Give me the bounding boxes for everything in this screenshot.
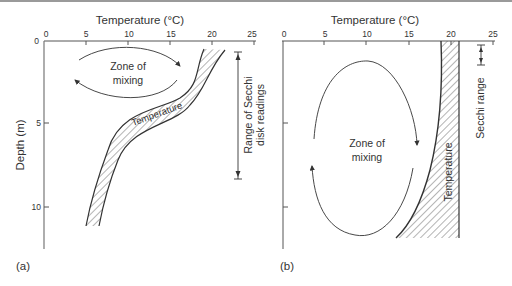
svg-text:20: 20 <box>207 29 217 39</box>
svg-text:10: 10 <box>32 202 42 212</box>
svg-text:15: 15 <box>166 29 176 39</box>
panel-a-x-ticks: 0 5 10 15 20 25 <box>44 29 257 45</box>
svg-text:15: 15 <box>404 29 414 39</box>
svg-text:5: 5 <box>84 29 89 39</box>
lake-temperature-diagram: Temperature (°C) 0 5 10 15 20 25 0 5 10 … <box>0 0 512 286</box>
svg-text:10: 10 <box>124 29 134 39</box>
panel-b-x-title: Temperature (°C) <box>331 14 419 26</box>
panel-b-y-ticks <box>283 123 288 207</box>
panel-b-secchi-range <box>477 45 485 65</box>
svg-text:10: 10 <box>362 29 372 39</box>
panel-a-secchi-range <box>234 52 242 179</box>
panel-a-label: (a) <box>16 260 30 272</box>
svg-text:20: 20 <box>446 29 456 39</box>
panel-a-secchi-label-2: disk readings <box>254 84 266 146</box>
svg-text:0: 0 <box>34 36 39 46</box>
panel-a-x-title: Temperature (°C) <box>96 14 184 26</box>
panel-a-y-title: Depth (m) <box>14 119 26 170</box>
panel-b-x-ticks: 0 5 10 15 20 25 <box>282 29 498 45</box>
panel-b-band-label: Temperature <box>442 142 454 201</box>
panel-b-zone-label-1: Zone of <box>349 137 385 149</box>
panel-a-secchi-label-1: Range of Secchi <box>242 76 254 153</box>
svg-text:0: 0 <box>44 29 49 39</box>
svg-text:5: 5 <box>36 118 41 128</box>
svg-text:25: 25 <box>488 29 498 39</box>
panel-b-secchi-label: Secchi range <box>474 77 486 138</box>
panel-a-zone-label-1: Zone of <box>110 60 146 72</box>
svg-text:0: 0 <box>282 29 287 39</box>
svg-text:5: 5 <box>323 29 328 39</box>
panel-b-temperature-wedge <box>396 41 459 238</box>
panel-a: Temperature (°C) 0 5 10 15 20 25 0 5 10 … <box>14 14 266 272</box>
panel-a-zone-label-2: mixing <box>113 74 144 86</box>
svg-text:25: 25 <box>247 29 257 39</box>
mixing-arrow-downward <box>314 61 417 145</box>
panel-a-temperature-band <box>86 49 225 226</box>
panel-b-zone-label-2: mixing <box>352 151 383 163</box>
panel-b: Temperature (°C) 0 5 10 15 20 25 Zone of… <box>280 14 498 272</box>
panel-b-label: (b) <box>280 260 294 272</box>
mixing-arrow-upward <box>312 166 413 236</box>
panel-a-y-ticks: 0 5 10 <box>32 36 49 212</box>
